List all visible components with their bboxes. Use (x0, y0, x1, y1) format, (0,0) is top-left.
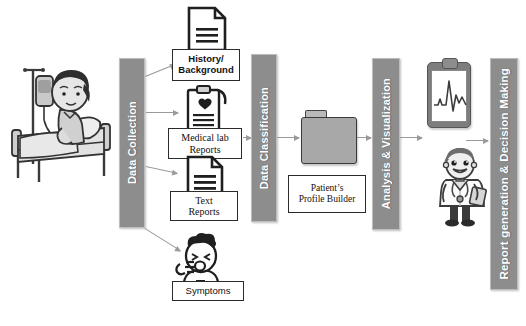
arrow-to-text (146, 166, 177, 173)
patient-hospital-bed-icon (6, 58, 118, 186)
arrow-to-report-stage (466, 140, 488, 141)
label-line-2: Reports (188, 206, 219, 218)
arrow-folder-to-analysis (357, 137, 371, 138)
label-box-history-background[interactable]: History/ Background (172, 49, 240, 81)
stage-bar-data-collection[interactable]: Data Collection (119, 58, 145, 228)
label-line-2: Reports (189, 144, 220, 156)
arrow-to-medical (146, 112, 178, 113)
label-box-symptoms[interactable]: Symptoms (172, 281, 244, 301)
arrow-medical-to-classification (243, 137, 251, 138)
stage-bar-report-decision[interactable]: Report generation & Decision Making (490, 58, 518, 290)
stage-bar-label: Data Collection (126, 101, 138, 184)
stage-bar-data-classification[interactable]: Data Classification (251, 54, 277, 222)
clipboard-clip (442, 58, 458, 69)
stage-bar-analysis-visualization[interactable]: Analysis & Visualization (372, 58, 400, 230)
label-line-2: Background (178, 65, 233, 76)
coughing-patient-icon (166, 232, 236, 286)
folder-body (301, 117, 357, 164)
arrow-classification-to-folder (277, 137, 299, 138)
stage-bar-label: Analysis & Visualization (380, 78, 392, 209)
clipboard-page (431, 70, 467, 122)
document-icon (185, 6, 229, 52)
label-line-2: Profile Builder (299, 194, 356, 205)
label-line-1: Text (195, 195, 213, 207)
stage-bar-label: Data Classification (258, 87, 270, 189)
arrow-analysis-to-ecg (400, 137, 422, 138)
label-box-text-reports[interactable]: Text Reports (170, 191, 238, 221)
ecg-clipboard-icon (427, 62, 471, 128)
flowchart-canvas: Data Collection History/ Background Medi… (0, 0, 526, 326)
label-line-1: Patient’s (311, 183, 344, 194)
doctor-icon (428, 144, 492, 228)
arrow-to-history (145, 64, 175, 76)
label-line-1: Symptoms (186, 286, 231, 297)
stage-bar-label: Report generation & Decision Making (498, 68, 510, 279)
label-box-patients-profile-builder[interactable]: Patient’s Profile Builder (288, 175, 366, 213)
clipboard-report-icon (183, 84, 229, 132)
folder-icon (301, 110, 355, 162)
label-line-1: Medical lab (181, 132, 228, 144)
